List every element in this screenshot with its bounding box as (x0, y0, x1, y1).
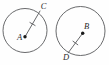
right-circle-center-dot (81, 32, 84, 35)
left-circle-center-label: A (16, 32, 23, 42)
left-radius-tick-mark (30, 22, 35, 25)
right-circle-point-label-d: D (62, 52, 70, 62)
left-circle-outline (3, 9, 47, 53)
geometry-figure: A C B D (0, 0, 109, 65)
left-circle-point-label-c: C (41, 1, 47, 11)
left-circle-center-dot (23, 35, 26, 38)
right-circle-group: B D (56, 7, 105, 63)
right-radius-tick-mark (73, 41, 78, 45)
right-circle-outline (56, 7, 105, 56)
right-circle-center-label: B (84, 21, 89, 31)
left-circle-group: A C (3, 1, 47, 53)
figure-canvas: A C B D (0, 0, 109, 65)
